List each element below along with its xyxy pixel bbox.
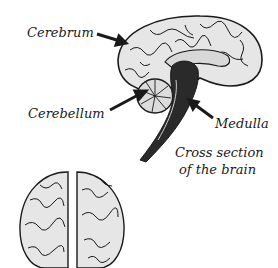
- caption-line-2: of the brain: [179, 163, 256, 176]
- cerebrum-label: Cerebrum: [27, 26, 94, 39]
- brain-diagram: [0, 0, 278, 268]
- cerebellum-arrow: [110, 94, 140, 110]
- medulla-label: Medulla: [215, 117, 269, 130]
- cerebellum-label: Cerebellum: [28, 107, 105, 120]
- top-view-brain: [20, 172, 124, 268]
- caption-line-1: Cross section: [175, 146, 264, 159]
- cross-section-brain: [118, 16, 262, 162]
